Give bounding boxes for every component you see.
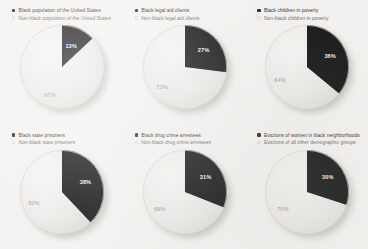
legend-bullet-icon (12, 16, 15, 19)
pie-slices (20, 150, 104, 234)
pie-panel: Black legal aid clientsNon-black legal a… (123, 0, 246, 125)
legend-entry-light: Non-black state prisoners (12, 139, 123, 147)
legend-bullet-icon (135, 16, 138, 19)
pie-percent-label-light: 69% (154, 206, 166, 212)
legend-entry-light: Non-black drug crime arrestees (135, 139, 246, 147)
legend-entry-dark: Black population of the United States (12, 7, 123, 15)
pie-percent-label-light: 70% (277, 206, 289, 212)
panel-legend: Evictions of women in black neighborhood… (257, 132, 368, 147)
legend-label: Evictions of all other demographic group… (264, 139, 356, 147)
legend-bullet-icon (135, 9, 138, 12)
legend-entry-dark: Black children in poverty (257, 7, 368, 15)
pie-panel: Evictions of women in black neighborhood… (245, 125, 368, 249)
pie-percent-label-dark: 38% (80, 179, 92, 185)
pie-percent-label-dark: 30% (322, 174, 334, 180)
legend-entry-light: Non-black children in poverty (257, 15, 368, 23)
pie-slices (265, 25, 349, 109)
legend-label: Black state prisoners (19, 132, 65, 140)
legend-label: Non-black legal aid clients (141, 15, 199, 23)
legend-label: Non-black children in poverty (264, 15, 329, 23)
pie-percent-label-dark: 36% (324, 53, 336, 59)
pie-chart: 36%64% (265, 25, 349, 109)
pie-chart: 30%70% (265, 150, 349, 234)
legend-entry-dark: Evictions of women in black neighborhood… (257, 132, 368, 140)
legend-entry-light: Non-black population of the United State… (12, 15, 123, 23)
legend-entry-dark: Black drug crime arrestees (135, 132, 246, 140)
legend-entry-light: Non-black legal aid clients (135, 15, 246, 23)
pie-chart: 27%73% (143, 25, 227, 109)
pie-slices (143, 25, 227, 109)
panel-legend: Black legal aid clientsNon-black legal a… (135, 7, 246, 22)
panel-legend: Black children in povertyNon-black child… (257, 7, 368, 22)
pie-chart: 31%69% (143, 150, 227, 234)
legend-bullet-icon (257, 9, 260, 12)
legend-entry-light: Evictions of all other demographic group… (257, 139, 368, 147)
legend-label: Non-black drug crime arrestees (141, 139, 211, 147)
legend-entry-dark: Black state prisoners (12, 132, 123, 140)
legend-label: Non-black state prisoners (19, 139, 76, 147)
pie-panel: Black children in povertyNon-black child… (245, 0, 368, 125)
legend-label: Black legal aid clients (141, 7, 189, 15)
pie-percent-label-light: 73% (156, 84, 168, 90)
legend-bullet-icon (135, 133, 138, 136)
legend-label: Black children in poverty (264, 7, 318, 15)
legend-bullet-icon (135, 141, 138, 144)
pie-percent-label-light: 62% (28, 200, 40, 206)
legend-bullet-icon (257, 16, 260, 19)
legend-label: Black population of the United States (19, 7, 101, 15)
pie-slices (265, 150, 349, 234)
legend-label: Evictions of women in black neighborhood… (264, 132, 360, 140)
panel-legend: Black drug crime arresteesNon-black drug… (135, 132, 246, 147)
pie-percent-label-dark: 27% (198, 47, 210, 53)
pie-slices (20, 25, 104, 109)
legend-bullet-icon (257, 133, 260, 136)
legend-label: Black drug crime arrestees (141, 132, 200, 140)
panel-legend: Black population of the United StatesNon… (12, 7, 123, 22)
pie-chart-grid: Black population of the United StatesNon… (0, 0, 368, 249)
legend-bullet-icon (257, 141, 260, 144)
legend-bullet-icon (12, 9, 15, 12)
legend-entry-dark: Black legal aid clients (135, 7, 246, 15)
pie-chart: 38%62% (20, 150, 104, 234)
legend-label: Non-black population of the United State… (19, 15, 111, 23)
pie-percent-label-dark: 31% (200, 174, 212, 180)
pie-panel: Black population of the United StatesNon… (0, 0, 123, 125)
pie-panel: Black drug crime arresteesNon-black drug… (123, 125, 246, 249)
pie-chart: 13%87% (20, 25, 104, 109)
legend-bullet-icon (12, 133, 15, 136)
legend-bullet-icon (12, 141, 15, 144)
pie-slices (143, 150, 227, 234)
pie-percent-label-dark: 13% (65, 43, 77, 49)
pie-percent-label-light: 64% (274, 77, 286, 83)
panel-legend: Black state prisonersNon-black state pri… (12, 132, 123, 147)
pie-panel: Black state prisonersNon-black state pri… (0, 125, 123, 249)
pie-percent-label-light: 87% (44, 92, 56, 98)
